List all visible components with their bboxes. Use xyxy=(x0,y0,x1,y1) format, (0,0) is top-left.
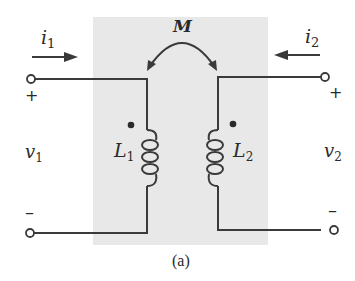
terminal-2-minus xyxy=(330,226,338,234)
terminal-2-plus xyxy=(321,73,329,81)
figure-caption: (a) xyxy=(172,252,190,270)
mutual-inductance-label: M xyxy=(172,16,193,36)
core-region xyxy=(93,17,268,245)
minus-sign-port2: – xyxy=(328,199,337,220)
terminal-1-minus xyxy=(26,229,34,237)
minus-sign-port1: – xyxy=(25,201,34,222)
current-arrow-i1-icon xyxy=(32,52,78,62)
voltage-v1-label: v1 xyxy=(25,141,43,165)
coupled-inductors-diagram: M i1 i2 xyxy=(0,0,355,281)
terminal-1-plus xyxy=(27,75,35,83)
polarity-dot-l1 xyxy=(128,122,135,129)
plus-sign-port1: + xyxy=(25,86,38,105)
voltage-v2-label: v2 xyxy=(324,140,342,164)
polarity-dot-l2 xyxy=(230,121,237,128)
plus-sign-port2-visible: + xyxy=(329,83,342,102)
current-i1-label: i1 xyxy=(41,26,55,51)
current-i2-label: i2 xyxy=(305,25,319,50)
